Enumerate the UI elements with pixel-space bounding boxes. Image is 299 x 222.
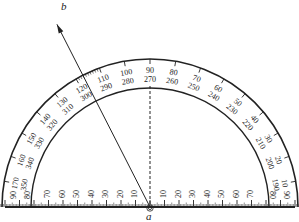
ruler-label-left: 10 [130, 190, 139, 198]
protractor-diagram: 1020304050607080901001101201301401501601… [0, 0, 299, 222]
end-label-right-inner: 80 [268, 191, 277, 199]
arc-tick [22, 133, 26, 136]
arrowhead-icon [57, 24, 63, 33]
point-b-label: b [61, 0, 67, 12]
arc-tick [37, 112, 41, 115]
arc-tick [55, 94, 58, 98]
arc-tick [76, 79, 79, 83]
inner-scale-label: 350 [19, 178, 30, 191]
ruler-label-right: 10 [159, 190, 168, 198]
arc-tick [99, 68, 101, 73]
arc-tick [4, 181, 9, 182]
end-label-right-outer: 90 [282, 191, 291, 199]
ruler-label-left: 70 [43, 190, 52, 198]
ruler-label-right: 60 [232, 190, 241, 198]
arc-tick [222, 79, 225, 83]
ruler-label-left: 40 [87, 190, 96, 198]
ray-ab [57, 24, 150, 207]
arc-tick [199, 68, 201, 73]
point-a-label: a [146, 210, 152, 222]
arc-tick [274, 133, 278, 136]
ruler-label-left: 60 [58, 190, 67, 198]
ruler-labels: 7060504030201010203040506070 [43, 190, 255, 198]
arc-tick [124, 61, 125, 66]
inner-scale-label: 190 [270, 178, 281, 191]
ruler-label-right: 70 [246, 190, 255, 198]
arc-tick [175, 61, 176, 66]
inner-scale-label: 270 [144, 75, 156, 84]
ray-line [57, 24, 150, 207]
outer-scale-label: 90 [146, 66, 154, 75]
inner-scale-label: 260 [165, 76, 178, 87]
ruler-label-right: 30 [188, 190, 197, 198]
ruler-label-left: 30 [101, 190, 110, 198]
ruler-label-right: 20 [174, 190, 183, 198]
arc-tick [260, 112, 264, 115]
end-label-left-outer: 90 [9, 191, 18, 199]
arc-tick [11, 156, 16, 158]
ruler-label-left: 50 [72, 190, 81, 198]
arc-tick [242, 94, 245, 98]
ruler-label-right: 50 [217, 190, 226, 198]
ruler-label-left: 20 [116, 190, 125, 198]
arc-tick [284, 156, 289, 158]
inner-scale-label: 280 [121, 76, 134, 87]
ruler-label-right: 40 [203, 190, 212, 198]
arc-tick [291, 181, 296, 182]
